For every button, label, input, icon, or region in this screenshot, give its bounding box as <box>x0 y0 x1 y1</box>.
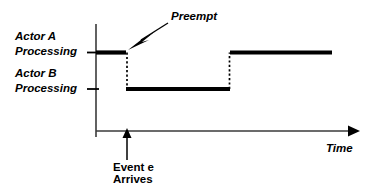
actor-a-lane-label: Actor A Processing <box>14 30 77 57</box>
actor-b-lane-label: Actor B Processing <box>14 67 77 94</box>
x-axis-arrowhead-icon <box>348 126 360 137</box>
actor-a-label-line2: Processing <box>15 45 77 57</box>
preempt-label: Preempt <box>171 10 218 22</box>
actor-a-label-line1: Actor A <box>14 30 56 42</box>
execution-track-group <box>96 53 332 90</box>
preempt-annotation-group: Preempt <box>128 10 218 50</box>
preempt-arrowhead-icon <box>128 32 155 51</box>
event-arrives-arrowhead-icon <box>123 128 132 138</box>
actor-b-label-line2: Processing <box>15 82 77 94</box>
axis-group <box>96 24 360 137</box>
diagram-canvas: Actor A Processing Actor B Processing Pr… <box>0 0 369 186</box>
lane-tick-group <box>87 53 99 90</box>
event-arrives-label-line2: Arrives <box>113 173 153 185</box>
event-arrives-label-line1: Event e <box>113 161 154 173</box>
preemption-timing-diagram: Actor A Processing Actor B Processing Pr… <box>0 0 369 186</box>
preempt-leader-line <box>141 23 168 40</box>
x-axis-label: Time <box>326 142 353 154</box>
event-arrives-annotation-group: Event e Arrives <box>113 128 154 185</box>
actor-b-label-line1: Actor B <box>14 67 57 79</box>
